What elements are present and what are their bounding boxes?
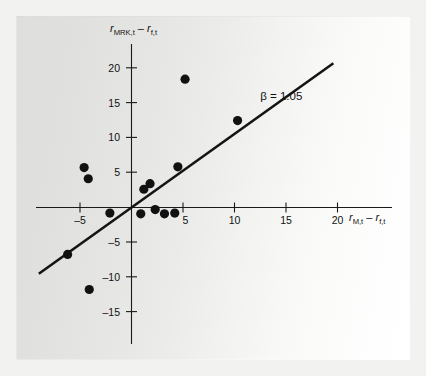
data-point bbox=[233, 116, 242, 125]
data-point bbox=[180, 75, 189, 84]
data-point bbox=[170, 209, 179, 218]
data-point bbox=[85, 285, 94, 294]
y-tick-labels-group: 20 15 10 5 –5 –10 –15 bbox=[102, 62, 120, 318]
axes-group bbox=[36, 44, 392, 344]
x-axis-title-sub2: f,t bbox=[379, 217, 386, 226]
data-point bbox=[84, 174, 93, 183]
beta-annotation: β = 1.05 bbox=[260, 90, 302, 102]
y-axis-title-sub2: f,t bbox=[151, 28, 158, 37]
x-tick-label-20: 20 bbox=[332, 214, 344, 226]
y-axis-title: rMRK,t – rf,t bbox=[110, 22, 158, 37]
data-point bbox=[105, 209, 114, 218]
x-tick-label-minus5: –5 bbox=[74, 214, 86, 226]
data-point bbox=[145, 179, 154, 188]
y-axis-title-minus: – bbox=[135, 22, 147, 34]
y-tick-label-15: 15 bbox=[108, 97, 120, 109]
y-tick-label-10: 10 bbox=[108, 131, 120, 143]
y-axis-title-sub: MRK,t bbox=[114, 28, 136, 37]
data-point bbox=[63, 250, 72, 259]
scatter-chart: 20 15 10 5 –5 –10 –15 –5 5 10 15 20 bbox=[0, 0, 426, 376]
y-tick-label-minus10: –10 bbox=[102, 271, 120, 283]
x-tick-label-15: 15 bbox=[280, 214, 292, 226]
x-axis-title-minus: – bbox=[363, 211, 375, 223]
y-tick-label-5: 5 bbox=[114, 166, 120, 178]
data-point bbox=[173, 162, 182, 171]
data-point bbox=[136, 209, 145, 218]
data-point bbox=[151, 205, 160, 214]
x-tick-label-10: 10 bbox=[229, 214, 241, 226]
figure-container: 20 15 10 5 –5 –10 –15 –5 5 10 15 20 bbox=[0, 0, 426, 376]
data-point bbox=[160, 209, 169, 218]
x-axis-title: rM,t – rf,t bbox=[349, 211, 386, 226]
x-tick-label-5: 5 bbox=[183, 214, 189, 226]
y-tick-label-minus5: –5 bbox=[108, 236, 120, 248]
data-points-group bbox=[63, 75, 242, 295]
data-point bbox=[80, 163, 89, 172]
y-tick-label-minus15: –15 bbox=[102, 306, 120, 318]
y-tick-label-20: 20 bbox=[108, 62, 120, 74]
